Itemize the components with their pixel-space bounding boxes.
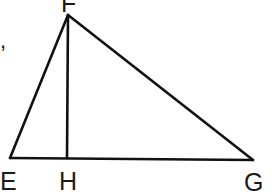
label-e: E xyxy=(0,167,17,194)
altitude-fh xyxy=(67,15,68,158)
label-g: G xyxy=(244,168,263,194)
label-h: H xyxy=(59,167,77,194)
stray-mark: , xyxy=(0,28,6,53)
triangle-diagram: F E H G , xyxy=(0,0,272,194)
segment-fg xyxy=(68,15,253,160)
segment-eg xyxy=(10,158,253,160)
label-f: F xyxy=(61,0,76,17)
segment-ef xyxy=(10,15,68,158)
